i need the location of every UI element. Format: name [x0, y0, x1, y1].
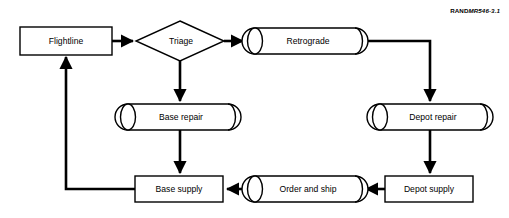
- node-triage[interactable]: [136, 21, 224, 61]
- node-retrograde[interactable]: [242, 28, 368, 54]
- node-base-repair[interactable]: [115, 104, 241, 130]
- node-depot-repair[interactable]: [367, 104, 493, 130]
- node-order-and-ship[interactable]: [242, 176, 368, 202]
- node-flightline[interactable]: [20, 27, 112, 55]
- flowchart-svg: [0, 0, 509, 218]
- edge-retrograde-to-depot-repair: [364, 41, 430, 101]
- node-depot-supply[interactable]: [385, 176, 473, 202]
- figure-canvas: RANDMR546-3.1: [0, 0, 509, 218]
- node-base-supply[interactable]: [135, 176, 223, 202]
